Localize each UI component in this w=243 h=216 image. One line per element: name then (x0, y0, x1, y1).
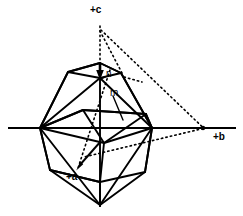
top-cap-edge-to-left-waist (40, 78, 100, 128)
b-axis-intercept-dot (201, 126, 205, 130)
a-axis-dotted-hidden (78, 70, 110, 168)
waist-belt-inner-left-diagonal (40, 110, 83, 128)
crystal-edges-group (40, 63, 152, 205)
upper-pyramid-edge-left (40, 72, 68, 128)
crystal-diagram-figure: +c +b +a n m (0, 0, 243, 216)
axis-label-b: +b (213, 132, 225, 142)
face-label-m: m (110, 88, 118, 98)
label-leaders-group (100, 77, 123, 120)
crystal-drawing-canvas (0, 0, 243, 216)
top-pinacoid-face (68, 63, 121, 78)
axis-label-a: +a (66, 172, 77, 182)
construction-line-apex-to-face-corner (100, 31, 122, 73)
top-cap-edge-to-right-waist (100, 78, 152, 128)
axis-label-c: +c (90, 5, 101, 15)
face-label-n: n (106, 69, 112, 79)
